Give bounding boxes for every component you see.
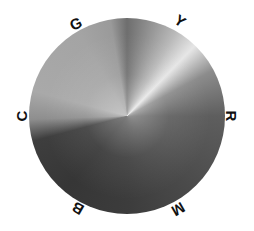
- label-cyan: C: [14, 108, 30, 124]
- hue-wheel: [29, 18, 225, 214]
- label-red: R: [223, 108, 239, 124]
